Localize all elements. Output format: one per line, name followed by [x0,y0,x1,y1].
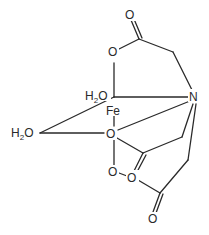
atom-o-lower-left: O [108,165,117,179]
bond-mid-c-ch2 [143,137,182,153]
atom-o-top-ester: O [108,45,117,59]
bond-bottom-c-ch2 [160,160,188,193]
atom-o-bottom-carbonyl: O [148,212,157,226]
bond-top-c-ch2 [139,39,173,52]
bond-lower-o-c [138,180,160,193]
atom-n: N [189,90,198,104]
bond-bottom-co-2 [156,194,163,213]
bond-bottom-co-1 [153,193,160,212]
bond-center-o-n [118,101,190,130]
atom-o-lower: O [127,171,136,185]
molecule-diagram: O O N H2O Fe H2O O O O O O [0,0,209,235]
atom-fe: Fe [106,104,120,118]
bond-o-o [119,173,127,176]
bond-center-o-c [117,138,143,153]
atom-labels: O O N H2O Fe H2O O O O O O [11,8,200,226]
atom-o-top-carbonyl: O [125,8,134,22]
bond-lower-ch2-n [188,104,196,160]
bond-top-c-o [119,39,139,49]
bond-ch2-n [173,52,192,90]
atom-o-center: O [106,127,115,141]
